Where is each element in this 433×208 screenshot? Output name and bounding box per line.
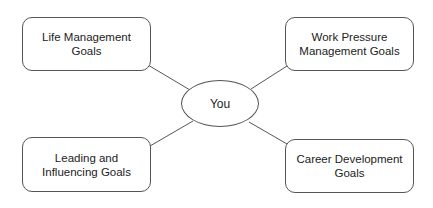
edge-work-pressure [251,66,287,89]
edge-career-development [249,122,287,144]
center-label: You [210,97,230,111]
edge-life-management [148,65,190,90]
node-work-pressure-management-goals: Work Pressure Management Goals [285,17,414,71]
node-leading-influencing-goals: Leading and Influencing Goals [22,137,151,192]
node-label: Career Development Goals [295,152,405,180]
node-label: Life Management Goals [42,30,132,58]
center-node-you: You [181,80,259,127]
node-life-management-goals: Life Management Goals [22,17,151,71]
node-label: Leading and Influencing Goals [27,151,146,179]
node-career-development-goals: Career Development Goals [285,139,414,193]
node-label: Work Pressure Management Goals [292,30,407,58]
edge-leading-influencing [150,121,193,146]
